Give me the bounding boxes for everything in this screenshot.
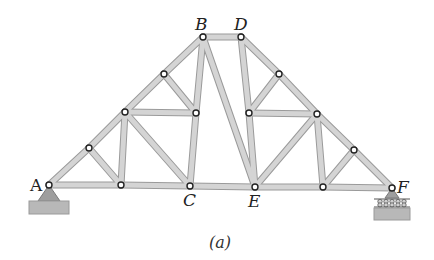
member-L3-IL: [164, 74, 196, 113]
joint-B4: [320, 184, 326, 190]
joint-R1: [351, 147, 357, 153]
joint-label-B: B: [194, 14, 208, 34]
member-L1-B1: [89, 148, 121, 185]
member-L2-L3: [125, 74, 164, 112]
member-L2-C: [125, 112, 190, 186]
truss-diagram: ABDCEF (a): [0, 0, 434, 260]
member-R1-F: [354, 150, 392, 188]
member-B4-F: [323, 187, 392, 188]
member-L2-IL: [125, 112, 196, 113]
joint-label-E: E: [247, 191, 261, 211]
joint-L1: [86, 145, 92, 151]
member-IL-C: [190, 113, 196, 186]
member-IR-R3: [249, 74, 279, 113]
joint-label-F: F: [396, 177, 410, 197]
joint-IR: [246, 110, 252, 116]
member-A-L1: [49, 148, 89, 185]
figure-caption: (a): [209, 233, 231, 252]
joint-L3: [161, 71, 167, 77]
member-B-IL: [196, 37, 203, 113]
member-R3-R2: [279, 74, 317, 114]
member-IR-R2: [249, 113, 317, 114]
joint-IL: [193, 110, 199, 116]
joint-L2: [122, 109, 128, 115]
joint-label-C: C: [183, 190, 196, 210]
joint-A: [46, 182, 52, 188]
truss-members: [49, 37, 392, 188]
joint-D: [238, 34, 244, 40]
joint-labels: ABDCEF: [29, 14, 410, 211]
joint-R2: [314, 111, 320, 117]
member-R1-B4: [323, 150, 354, 187]
joint-B: [200, 34, 206, 40]
joint-B1: [118, 182, 124, 188]
joint-C: [187, 183, 193, 189]
joint-F: [389, 185, 395, 191]
member-R2-E: [255, 114, 317, 187]
member-L1-L2: [89, 112, 125, 148]
joint-E: [252, 184, 258, 190]
joint-label-D: D: [233, 14, 248, 34]
member-R2-B4: [317, 114, 323, 187]
joint-R3: [276, 71, 282, 77]
truss-figure: ABDCEF (a): [0, 0, 434, 260]
member-B1-C: [121, 185, 190, 186]
joint-label-A: A: [29, 175, 43, 195]
member-C-E: [190, 186, 255, 187]
